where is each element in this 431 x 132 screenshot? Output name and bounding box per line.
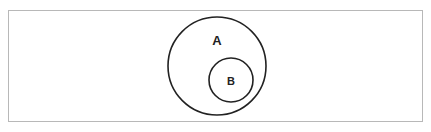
set-a-label: A bbox=[212, 33, 222, 48]
venn-diagram: A B bbox=[0, 0, 431, 132]
set-a-circle bbox=[168, 17, 266, 115]
set-b-label: B bbox=[227, 75, 235, 87]
